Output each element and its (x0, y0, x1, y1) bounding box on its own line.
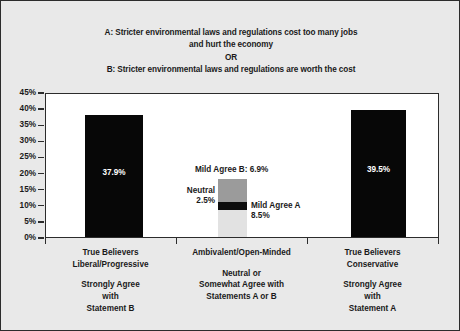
x-axis-group-2-line-4: with (307, 291, 438, 303)
x-axis-tickmark-2 (307, 238, 308, 244)
y-axis-tick-label-10: 10% (20, 200, 36, 212)
y-axis-tickmark-30 (38, 141, 44, 142)
x-axis-group-1-line-5: Statements A or B (176, 291, 307, 303)
x-axis-group-true-believers-conservative: True Believers Conservative Strongly Agr… (307, 247, 438, 314)
x-axis-group-0-line-2: Liberal/Progressive (45, 259, 176, 271)
x-axis-group-1-line-1: Ambivalent/Open-Minded (176, 247, 307, 259)
x-axis-group-0-line-3: Strongly Agree (45, 279, 176, 291)
bar-segment-mild-agree-a[interactable] (218, 210, 247, 237)
y-axis-tick-label-0: 0% (24, 232, 36, 244)
x-axis-group-0-line-4: with (45, 291, 176, 303)
x-axis-tickmark-1 (176, 238, 177, 244)
y-axis: 45% 40% 35% 30% 25% 20% 15% 10% 5% 0% (1, 87, 45, 244)
x-axis-group-ambivalent-open-minded: Ambivalent/Open-Minded Neutral or Somewh… (176, 247, 307, 303)
annotation-neutral: Neutral 2.5% (169, 186, 215, 205)
chart-figure: A: Stricter environmental laws and regul… (0, 0, 460, 331)
bar-value-label-liberal: 37.9% (85, 168, 143, 177)
y-axis-tick-label-45: 45% (20, 87, 36, 99)
y-axis-tick-label-20: 20% (20, 168, 36, 180)
y-axis-tick-label-30: 30% (20, 135, 36, 147)
annotation-mild-agree-a: Mild Agree A 8.5% (251, 201, 300, 220)
x-axis-group-1-line-4: Somewhat Agree with (176, 279, 307, 291)
y-axis-tickmark-0 (38, 237, 44, 238)
x-axis-tickmark-0 (45, 238, 46, 244)
x-axis-group-2-line-1: True Believers (307, 247, 438, 259)
y-axis-tickmark-45 (38, 92, 44, 93)
y-axis-tick-label-15: 15% (20, 184, 36, 196)
y-axis-tickmark-10 (38, 205, 44, 206)
chart-title-line-2: and hurt the economy (29, 39, 433, 51)
x-axis-group-0-spacer (45, 270, 176, 279)
chart-title-line-3: OR (29, 52, 433, 64)
x-axis-group-1-line-3: Neutral or (176, 268, 307, 280)
annotation-mild-agree-a-line-2: 8.5% (251, 211, 270, 220)
y-axis-tick-label-40: 40% (20, 103, 36, 115)
chart-title-line-1: A: Stricter environmental laws and regul… (29, 27, 433, 39)
y-axis-tickmark-35 (38, 125, 44, 126)
bar-segment-mild-agree-b[interactable] (218, 179, 247, 201)
bar-value-label-conservative: 39.5% (351, 165, 406, 174)
y-axis-tickmark-25 (38, 157, 44, 158)
x-axis-group-2-line-3: Strongly Agree (307, 279, 438, 291)
x-axis-group-0-line-1: True Believers (45, 247, 176, 259)
bar-true-believers-conservative[interactable]: 39.5% (351, 110, 406, 237)
chart-title: A: Stricter environmental laws and regul… (29, 27, 433, 77)
y-axis-tickmark-15 (38, 189, 44, 190)
x-axis-group-2-spacer (307, 270, 438, 279)
bar-ambivalent-open-minded[interactable] (218, 180, 247, 237)
annotation-mild-agree-a-line-1: Mild Agree A (251, 201, 300, 210)
x-axis-group-1-spacer (176, 259, 307, 268)
annotation-neutral-line-2: 2.5% (196, 196, 215, 205)
x-axis-group-true-believers-liberal: True Believers Liberal/Progressive Stron… (45, 247, 176, 314)
y-axis-tick-label-25: 25% (20, 151, 36, 163)
bar-segment-neutral[interactable] (218, 202, 247, 210)
chart-title-line-4: B: Stricter environmental laws and regul… (29, 64, 433, 76)
y-axis-tick-label-5: 5% (24, 216, 36, 228)
x-axis-group-2-line-2: Conservative (307, 259, 438, 271)
annotation-neutral-line-1: Neutral (187, 186, 215, 195)
y-axis-tickmark-5 (38, 221, 44, 222)
y-axis-tick-label-35: 35% (20, 119, 36, 131)
bar-true-believers-liberal[interactable]: 37.9% (85, 115, 143, 237)
y-axis-tickmark-20 (38, 173, 44, 174)
x-axis-tickmark-3 (438, 238, 439, 244)
x-axis-group-0-line-5: Statement B (45, 303, 176, 315)
x-axis-group-2-line-5: Statement A (307, 303, 438, 315)
y-axis-tickmark-40 (38, 108, 44, 109)
annotation-mild-agree-b: Mild Agree B: 6.9% (195, 165, 268, 175)
